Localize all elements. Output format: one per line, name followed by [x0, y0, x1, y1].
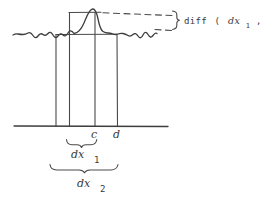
- interval2-subscript: 2: [100, 184, 106, 194]
- diff-arg1-subscript: 1: [246, 22, 251, 30]
- x-axis: [14, 126, 168, 127]
- base-level-dashed-line: [155, 30, 172, 31]
- interval2-underbrace: [50, 165, 118, 173]
- peak-level-dashed-line: [103, 13, 172, 16]
- diagram-canvas: diff ( dx 1 , dx 2 ) c d dx 1 dx 2: [0, 0, 266, 202]
- interval2-label: dx 2: [77, 172, 106, 194]
- interval2-base: dx: [77, 177, 91, 190]
- interval1-subscript: 1: [94, 155, 100, 165]
- outer-right-vertical: [117, 35, 118, 127]
- point-d-label: d: [113, 128, 120, 141]
- diff-separator: ,: [256, 16, 262, 26]
- interval1-base: dx: [71, 148, 85, 161]
- diff-arg1: dx: [228, 15, 240, 26]
- diff-brace: [173, 11, 180, 30]
- point-c-label: c: [91, 128, 97, 141]
- signal-curve: [13, 9, 157, 38]
- interval1-label: dx 1: [71, 143, 100, 165]
- outer-interval-box: [56, 34, 118, 126]
- diff-open-paren: (: [215, 16, 221, 26]
- diff-label: diff ( dx 1 , dx 2 ): [184, 15, 266, 30]
- diff-func-name: diff: [184, 16, 207, 26]
- hand-drawn-figure: diff ( dx 1 , dx 2 ) c d dx 1 dx 2: [0, 0, 266, 202]
- inner-interval-box: [69, 12, 101, 126]
